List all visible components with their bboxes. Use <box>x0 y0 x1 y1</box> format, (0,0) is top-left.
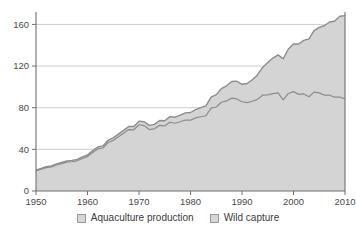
svg-text:160: 160 <box>13 19 29 30</box>
svg-text:1980: 1980 <box>180 196 201 205</box>
svg-text:0: 0 <box>24 185 29 196</box>
svg-text:2010: 2010 <box>334 196 355 205</box>
chart-legend: Aquaculture production Wild capture <box>0 213 356 223</box>
fisheries-production-chart: 040801201601950196019701980199020002010 … <box>0 0 356 243</box>
area-wild-capture <box>36 92 345 191</box>
svg-text:1950: 1950 <box>25 196 46 205</box>
svg-text:40: 40 <box>18 144 29 155</box>
legend-item-aquaculture[interactable]: Aquaculture production <box>77 213 194 223</box>
plot-area: 040801201601950196019701980199020002010 <box>0 0 356 205</box>
chart-svg: 040801201601950196019701980199020002010 <box>0 0 356 205</box>
area-series-group <box>36 16 345 191</box>
legend-swatch-icon-wild-capture <box>210 214 219 223</box>
svg-text:1970: 1970 <box>128 196 149 205</box>
legend-item-wild-capture[interactable]: Wild capture <box>210 213 280 223</box>
svg-text:120: 120 <box>13 60 29 71</box>
svg-text:1990: 1990 <box>231 196 252 205</box>
svg-text:80: 80 <box>18 102 29 113</box>
legend-swatch-icon-aquaculture <box>77 214 86 223</box>
legend-label-aquaculture: Aquaculture production <box>91 213 194 223</box>
svg-text:1960: 1960 <box>77 196 98 205</box>
svg-text:2000: 2000 <box>283 196 304 205</box>
legend-label-wild-capture: Wild capture <box>224 213 280 223</box>
